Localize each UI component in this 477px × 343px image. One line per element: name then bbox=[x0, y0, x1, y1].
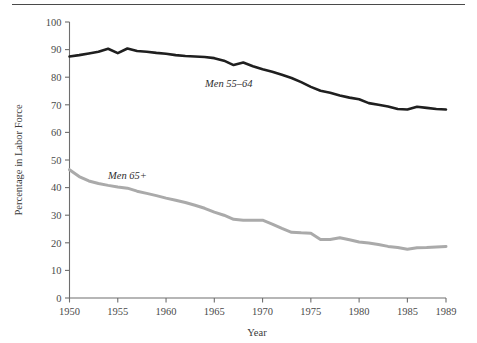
series-lines bbox=[70, 49, 447, 250]
x-axis-tick-label: 1970 bbox=[252, 306, 273, 317]
y-axis-tick-label: 40 bbox=[51, 182, 62, 193]
x-axis-tick-label: 1989 bbox=[436, 306, 457, 317]
series-label: Men 55–64 bbox=[204, 78, 253, 89]
x-axis-tick-label: 1965 bbox=[204, 306, 225, 317]
y-axis-tick-label: 70 bbox=[51, 100, 62, 111]
x-axis-tick-label: 1960 bbox=[156, 306, 177, 317]
x-axis-tick-label: 1975 bbox=[300, 306, 321, 317]
series-line bbox=[70, 170, 447, 249]
y-axis: 0102030405060708090100 bbox=[46, 17, 70, 304]
y-axis-tick-label: 90 bbox=[51, 44, 62, 55]
x-axis-title: Year bbox=[247, 327, 267, 338]
series-label: Men 65+ bbox=[107, 170, 147, 181]
x-axis-tick-label: 1980 bbox=[349, 306, 370, 317]
x-axis-tick-label: 1950 bbox=[59, 306, 80, 317]
y-axis-tick-label: 30 bbox=[51, 210, 62, 221]
y-axis-tick-label: 60 bbox=[51, 127, 62, 138]
x-axis-tick-label: 1955 bbox=[107, 306, 128, 317]
figure-page: 0102030405060708090100 19501955196019651… bbox=[0, 0, 477, 343]
x-axis: 195019551960196519701975198019851989 bbox=[59, 298, 457, 317]
y-axis-title: Percentage in Labor Force bbox=[13, 104, 24, 215]
chart-canvas: 0102030405060708090100 19501955196019651… bbox=[0, 0, 477, 343]
y-axis-tick-label: 100 bbox=[46, 17, 62, 28]
series-line bbox=[70, 49, 447, 110]
y-axis-tick-label: 80 bbox=[51, 72, 62, 83]
y-axis-tick-label: 10 bbox=[51, 265, 62, 276]
x-axis-tick-label: 1985 bbox=[397, 306, 418, 317]
series-annotations: Men 55–64Men 65+ bbox=[107, 78, 253, 181]
y-axis-tick-label: 20 bbox=[51, 238, 62, 249]
y-axis-tick-label: 0 bbox=[56, 293, 61, 304]
y-axis-tick-label: 50 bbox=[51, 155, 62, 166]
line-chart: 0102030405060708090100 19501955196019651… bbox=[0, 0, 477, 343]
